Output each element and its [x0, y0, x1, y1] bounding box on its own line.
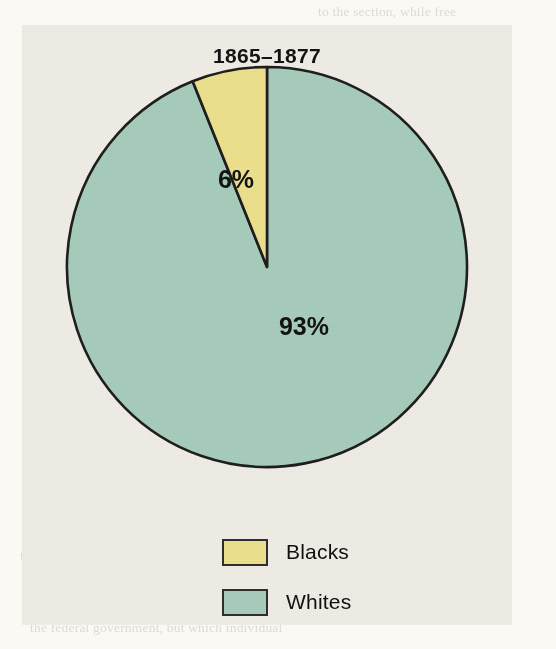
legend-item-blacks[interactable]: Blacks — [200, 527, 440, 577]
chart-panel: 1865–1877 6% 93% Blacks Whites — [22, 25, 512, 625]
pie-chart: 6% 93% — [63, 63, 471, 471]
legend-label-blacks: Blacks — [286, 540, 349, 564]
showthrough-line: to the section, while free — [318, 4, 456, 20]
legend-swatch-whites — [222, 589, 268, 616]
pie-chart-svg: 6% 93% — [63, 63, 471, 471]
pie-label-whites: 93% — [279, 312, 329, 340]
page-background: to the section, while freeere to condemn… — [0, 0, 556, 649]
legend-item-whites[interactable]: Whites — [200, 577, 440, 625]
pie-label-blacks: 6% — [218, 165, 254, 193]
chart-legend: Blacks Whites — [200, 527, 440, 625]
legend-label-whites: Whites — [286, 590, 351, 614]
legend-swatch-blacks — [222, 539, 268, 566]
